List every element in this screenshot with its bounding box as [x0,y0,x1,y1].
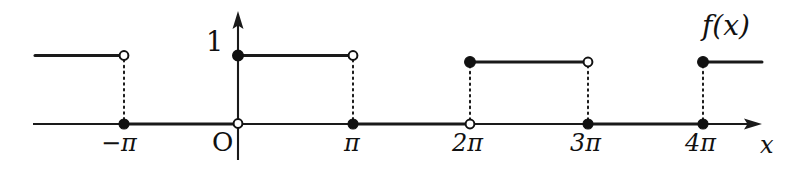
x-tick-label-three-pi: 3π [570,131,601,155]
filled-dot-four-pi-upper [698,57,709,68]
function-graph-figure: 1 O −π π 2π 3π 4π x f(x) [0,0,796,174]
filled-dot-pi-lower [348,119,358,129]
function-name-label: f(x) [702,12,750,40]
endpoint-markers [119,50,708,129]
open-circle-origin-lower [234,119,243,128]
y-axis-tick-label-one: 1 [206,28,223,55]
open-circle-two-pi-lower [466,120,475,129]
x-tick-label-minus-pi: −π [101,131,137,155]
open-circle-minus-pi-upper [120,51,129,60]
y-axis [233,11,244,160]
x-tick-label-pi: π [344,131,360,155]
filled-dot-three-pi-lower [583,119,593,129]
filled-dot-origin-upper [233,50,244,61]
drop-lines-group [124,60,703,120]
filled-dot-four-pi-lower [698,119,708,129]
x-axis-label: x [760,133,774,157]
filled-dot-two-pi-upper [465,57,476,68]
open-circle-three-pi-upper [584,58,593,67]
upper-step-segments [35,56,762,63]
open-circle-pi-upper [349,51,358,60]
origin-label: O [212,129,233,155]
filled-dot-minus-pi-lower [119,119,129,129]
x-tick-label-four-pi: 4π [685,131,716,155]
x-tick-label-two-pi: 2π [452,131,483,155]
